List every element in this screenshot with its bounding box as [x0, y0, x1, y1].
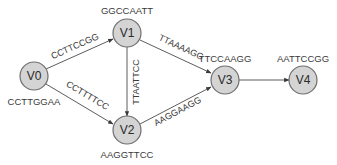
node-sequence: CCTTGGAA	[8, 96, 61, 107]
node-label: V4	[296, 73, 311, 87]
edge-label: CCTTCCGG	[49, 31, 100, 61]
node-v2[interactable]: V2 AAGGTTCC	[101, 116, 154, 160]
node-sequence: AAGGTTCC	[101, 149, 154, 160]
node-label: V2	[120, 123, 135, 137]
node-sequence: GGCCAATT	[101, 5, 153, 16]
node-v0[interactable]: V0 CCTTGGAA	[8, 62, 61, 107]
edge-label: AAGGAAGG	[152, 95, 203, 128]
graph-diagram: CCTTCCGG CCTTTTCC TTAATTCC TTAAAAGG AAGG…	[0, 0, 337, 165]
node-sequence: TTCCAAGG	[199, 53, 252, 64]
node-label: V3	[218, 73, 233, 87]
node-sequence: AATTCCGG	[277, 53, 329, 64]
edges: CCTTCCGG CCTTTTCC TTAATTCC TTAAAAGG AAGG…	[46, 31, 289, 128]
node-label: V1	[120, 26, 135, 40]
edge-label: TTAATTCC	[131, 59, 141, 105]
node-v4[interactable]: V4 AATTCCGG	[277, 53, 329, 94]
edge-v0-v1: CCTTCCGG	[46, 31, 113, 69]
edge-label: CCTTTTCC	[64, 79, 111, 113]
edge-v2-v3: AAGGAAGG	[140, 87, 211, 128]
node-v3[interactable]: V3 TTCCAAGG	[199, 53, 252, 94]
node-label: V0	[27, 69, 42, 83]
edge-v1-v2: TTAATTCC	[127, 47, 141, 116]
nodes: V0 CCTTGGAA V1 GGCCAATT V2 AAGGTTCC V3 T…	[8, 5, 329, 160]
edge-line	[140, 87, 211, 124]
